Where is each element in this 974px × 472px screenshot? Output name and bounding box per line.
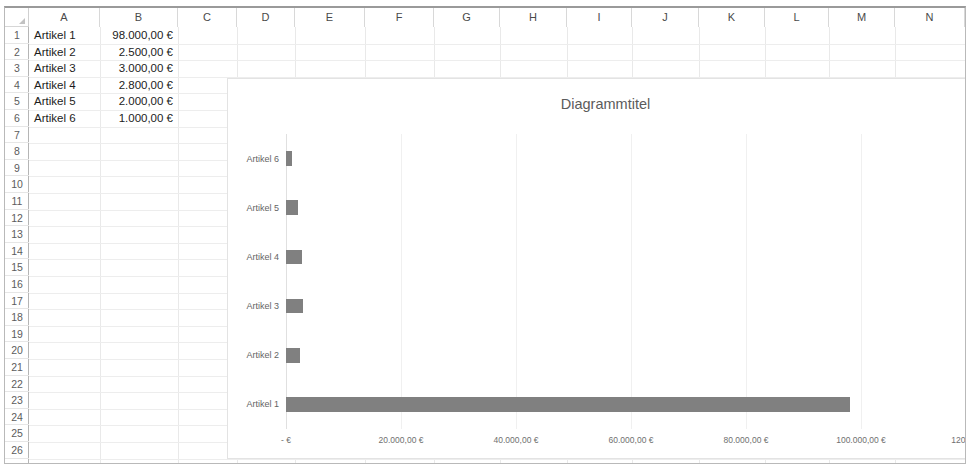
- gridline-x: [516, 134, 517, 429]
- column-header-i[interactable]: I: [567, 8, 632, 27]
- bar-row: Artikel 4: [286, 250, 966, 265]
- row-header-bar: 1234567891011121314151617181920212223242…: [5, 27, 29, 464]
- bar[interactable]: [286, 299, 303, 314]
- row-header-3[interactable]: 3: [5, 60, 29, 77]
- cell-b6[interactable]: 1.000,00 €: [100, 110, 178, 127]
- grid-column-divider: [178, 27, 179, 463]
- bar[interactable]: [286, 151, 292, 166]
- x-tick-label-2: 40.000,00 €: [494, 435, 539, 445]
- column-header-k[interactable]: K: [699, 8, 765, 27]
- column-header-d[interactable]: D: [237, 8, 295, 27]
- x-tick-label-0: - €: [281, 435, 291, 445]
- row-header-25[interactable]: 25: [5, 425, 29, 442]
- bar-row: Artikel 2: [286, 348, 966, 363]
- value-axis-line: [286, 134, 287, 429]
- column-header-e[interactable]: E: [295, 8, 365, 27]
- bar[interactable]: [286, 348, 300, 363]
- row-header-27[interactable]: 27: [5, 459, 29, 464]
- row-header-10[interactable]: 10: [5, 176, 29, 193]
- row-header-4[interactable]: 4: [5, 77, 29, 94]
- cell-a3[interactable]: Artikel 3: [29, 60, 100, 77]
- row-header-16[interactable]: 16: [5, 276, 29, 293]
- x-tick-label-5: 100.000,00 €: [836, 435, 886, 445]
- row-header-6[interactable]: 6: [5, 110, 29, 127]
- column-header-n[interactable]: N: [895, 8, 965, 27]
- column-header-j[interactable]: J: [632, 8, 699, 27]
- cell-a1[interactable]: Artikel 1: [29, 27, 100, 44]
- category-label: Artikel 3: [246, 301, 279, 311]
- column-header-b[interactable]: B: [100, 8, 178, 27]
- row-header-17[interactable]: 17: [5, 293, 29, 310]
- cell-a2[interactable]: Artikel 2: [29, 44, 100, 61]
- select-all-triangle-icon: [19, 18, 25, 24]
- chart-title: Diagrammtitel: [228, 96, 966, 112]
- bar-row: Artikel 3: [286, 299, 966, 314]
- category-label: Artikel 5: [246, 203, 279, 213]
- row-header-14[interactable]: 14: [5, 243, 29, 260]
- x-tick-label-6: 120.000,00 €: [951, 435, 966, 445]
- row-header-9[interactable]: 9: [5, 160, 29, 177]
- column-header-f[interactable]: F: [365, 8, 434, 27]
- gridlines: [286, 134, 966, 429]
- plot-area: Artikel 6Artikel 5Artikel 4Artikel 3Arti…: [286, 134, 966, 429]
- cell-b4[interactable]: 2.800,00 €: [100, 77, 178, 94]
- cell-b1[interactable]: 98.000,00 €: [100, 27, 178, 44]
- row-header-21[interactable]: 21: [5, 359, 29, 376]
- row-header-2[interactable]: 2: [5, 44, 29, 61]
- gridline-x: [631, 134, 632, 429]
- row-header-20[interactable]: 20: [5, 342, 29, 359]
- column-header-c[interactable]: C: [178, 8, 237, 27]
- select-all-button[interactable]: [5, 8, 29, 27]
- row-header-12[interactable]: 12: [5, 210, 29, 227]
- bar[interactable]: [286, 200, 298, 215]
- row-header-1[interactable]: 1: [5, 27, 29, 44]
- bar[interactable]: [286, 397, 850, 412]
- category-label: Artikel 6: [246, 154, 279, 164]
- row-header-18[interactable]: 18: [5, 309, 29, 326]
- x-tick-label-3: 60.000,00 €: [609, 435, 654, 445]
- gridline-x: [401, 134, 402, 429]
- bar-row: Artikel 6: [286, 151, 966, 166]
- row-header-13[interactable]: 13: [5, 226, 29, 243]
- gridline-x: [746, 134, 747, 429]
- column-header-h[interactable]: H: [500, 8, 567, 27]
- bar-row: Artikel 1: [286, 397, 966, 412]
- category-label: Artikel 4: [246, 252, 279, 262]
- row-header-19[interactable]: 19: [5, 326, 29, 343]
- cell-b2[interactable]: 2.500,00 €: [100, 44, 178, 61]
- category-label: Artikel 2: [246, 350, 279, 360]
- cell-a4[interactable]: Artikel 4: [29, 77, 100, 94]
- column-header-a[interactable]: A: [29, 8, 100, 27]
- excel-screenshot: ABCDEFGHIJKLMN 1234567891011121314151617…: [0, 0, 974, 472]
- x-tick-label-1: 20.000,00 €: [379, 435, 424, 445]
- chart-object[interactable]: Diagrammtitel Artikel 6Artikel 5Artikel …: [227, 78, 966, 459]
- category-label: Artikel 1: [246, 399, 279, 409]
- gridline-x: [861, 134, 862, 429]
- grid-body: Artikel 1Artikel 2Artikel 3Artikel 4Arti…: [29, 27, 965, 463]
- x-axis-tick-labels: - €20.000,00 €40.000,00 €60.000,00 €80.0…: [286, 435, 966, 451]
- row-header-23[interactable]: 23: [5, 392, 29, 409]
- cell-b3[interactable]: 3.000,00 €: [100, 60, 178, 77]
- row-header-26[interactable]: 26: [5, 442, 29, 459]
- bar[interactable]: [286, 250, 302, 265]
- column-header-g[interactable]: G: [434, 8, 500, 27]
- row-header-22[interactable]: 22: [5, 376, 29, 393]
- row-header-5[interactable]: 5: [5, 93, 29, 110]
- x-tick-label-4: 80.000,00 €: [724, 435, 769, 445]
- bar-row: Artikel 5: [286, 200, 966, 215]
- cell-a5[interactable]: Artikel 5: [29, 93, 100, 110]
- row-header-11[interactable]: 11: [5, 193, 29, 210]
- row-header-8[interactable]: 8: [5, 143, 29, 160]
- column-header-m[interactable]: M: [829, 8, 895, 27]
- cell-a6[interactable]: Artikel 6: [29, 110, 100, 127]
- row-header-24[interactable]: 24: [5, 409, 29, 426]
- grid-column-divider: [965, 27, 966, 463]
- column-header-l[interactable]: L: [765, 8, 829, 27]
- row-header-7[interactable]: 7: [5, 127, 29, 144]
- worksheet-frame: ABCDEFGHIJKLMN 1234567891011121314151617…: [4, 6, 966, 464]
- row-header-15[interactable]: 15: [5, 259, 29, 276]
- cell-b5[interactable]: 2.000,00 €: [100, 93, 178, 110]
- column-header-bar: ABCDEFGHIJKLMN: [5, 8, 965, 27]
